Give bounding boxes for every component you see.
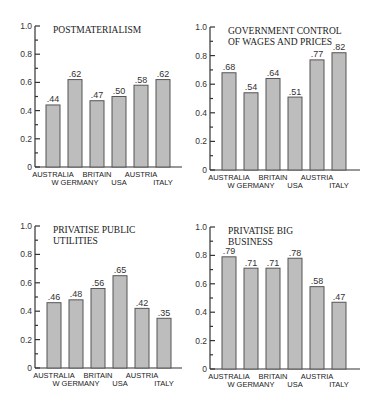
chart-privatise-public-utilities: 00.20.40.60.81.0PRIVATISE PUBLICUTILITIE…	[20, 221, 182, 388]
bar-value-label: .44	[47, 94, 60, 104]
category-label: USA	[112, 379, 127, 388]
y-tick-label: 0.4	[20, 106, 32, 116]
chart-postmaterialism: 00.20.40.60.81.0POSTMATERIALISM.44.62.47…	[20, 21, 182, 187]
bar-value-label: .35	[158, 308, 171, 318]
chart-title: UTILITIES	[53, 236, 98, 246]
category-label: BRITAIN	[82, 170, 111, 179]
bar-value-label: .65	[114, 265, 127, 275]
y-tick-label: 0.2	[195, 136, 207, 146]
y-tick-label: 0.4	[195, 307, 207, 317]
category-label: ITALY	[329, 181, 349, 190]
category-label: BRITAIN	[258, 173, 287, 182]
bar-value-label: .54	[245, 82, 258, 92]
bar	[156, 80, 170, 167]
bar	[310, 60, 324, 170]
y-tick-label: 1.0	[20, 21, 32, 31]
bar	[68, 80, 82, 167]
bar-value-label: .82	[333, 42, 346, 52]
bar	[288, 97, 302, 170]
bar-value-label: .78	[289, 248, 302, 258]
bar	[112, 97, 126, 168]
category-label: ITALY	[154, 379, 174, 388]
bar-value-label: .47	[91, 90, 104, 100]
bar	[310, 287, 324, 369]
y-tick-label: 0.8	[195, 250, 207, 260]
chart-title: PRIVATISE BIG	[228, 226, 293, 236]
bar	[244, 93, 258, 170]
chart-title: PRIVATISE PUBLIC	[53, 225, 135, 235]
bar	[288, 258, 302, 369]
y-tick-label: 0.6	[20, 77, 32, 87]
bar-value-label: .46	[48, 292, 61, 302]
chart-grid: 00.20.40.60.81.0POSTMATERIALISM.44.62.47…	[0, 0, 369, 402]
category-label: W GERMANY	[52, 379, 99, 388]
y-tick-label: 0.2	[195, 336, 207, 346]
bar-value-label: .62	[69, 69, 82, 79]
category-label: ITALY	[329, 380, 349, 389]
bar-value-label: .64	[267, 68, 280, 78]
y-tick-label: 0	[202, 364, 207, 374]
category-label: USA	[287, 181, 302, 190]
bar	[266, 268, 280, 369]
y-tick-label: 0.6	[195, 79, 207, 89]
y-tick-label: 0.4	[195, 108, 207, 118]
category-label: ITALY	[153, 178, 173, 187]
chart-title: OF WAGES AND PRICES	[228, 37, 332, 47]
y-tick-label: 0.8	[20, 249, 32, 259]
category-label: BRITAIN	[83, 371, 112, 380]
category-label: USA	[111, 178, 126, 187]
y-tick-label: 0.6	[20, 278, 32, 288]
y-tick-label: 0.4	[20, 306, 32, 316]
bar	[332, 302, 346, 369]
bar-value-label: .77	[311, 49, 324, 59]
bar	[69, 300, 83, 368]
chart-privatise-big-business: 00.20.40.60.81.0PRIVATISE BIGBUSINESS.79…	[195, 222, 360, 389]
bar	[222, 257, 236, 369]
y-tick-label: 0.2	[20, 335, 32, 345]
y-tick-label: 0	[27, 363, 32, 373]
bar	[222, 73, 236, 170]
bar-value-label: .62	[157, 69, 170, 79]
bar-value-label: .68	[223, 62, 236, 72]
bar-value-label: .47	[333, 292, 346, 302]
bar-value-label: .56	[92, 278, 105, 288]
bar	[47, 303, 61, 368]
bar-value-label: .51	[289, 87, 302, 97]
bar	[90, 101, 104, 167]
y-tick-label: 1.0	[20, 221, 32, 231]
bar-value-label: .79	[223, 246, 236, 256]
bar-value-label: .71	[267, 258, 280, 268]
bar-value-label: .50	[113, 86, 126, 96]
y-tick-label: 0.8	[20, 49, 32, 59]
y-tick-label: 1.0	[195, 22, 207, 32]
bar-value-label: .58	[311, 276, 324, 286]
chart-government-control: 00.20.40.60.81.0GOVERNMENT CONTROLOF WAG…	[195, 22, 360, 190]
bar-value-label: .71	[245, 258, 258, 268]
category-label: W GERMANY	[51, 178, 98, 187]
y-tick-label: 0.8	[195, 51, 207, 61]
bar	[46, 105, 60, 167]
bar	[134, 85, 148, 167]
bar-value-label: .48	[70, 289, 83, 299]
bar	[135, 308, 149, 368]
bar	[113, 276, 127, 368]
y-tick-label: 0.6	[195, 279, 207, 289]
category-label: W GERMANY	[227, 380, 274, 389]
category-label: USA	[287, 380, 302, 389]
y-tick-label: 0.2	[20, 134, 32, 144]
bar	[244, 268, 258, 369]
bar	[332, 53, 346, 170]
bar-value-label: .42	[136, 298, 149, 308]
chart-title: POSTMATERIALISM	[53, 25, 142, 35]
category-label: W GERMANY	[227, 181, 274, 190]
bar	[266, 78, 280, 170]
y-tick-label: 1.0	[195, 222, 207, 232]
y-tick-label: 0	[202, 165, 207, 175]
bar	[157, 318, 171, 368]
bar-value-label: .58	[135, 75, 148, 85]
category-label: BRITAIN	[258, 372, 287, 381]
bar	[91, 288, 105, 368]
chart-title: GOVERNMENT CONTROL	[228, 26, 342, 36]
